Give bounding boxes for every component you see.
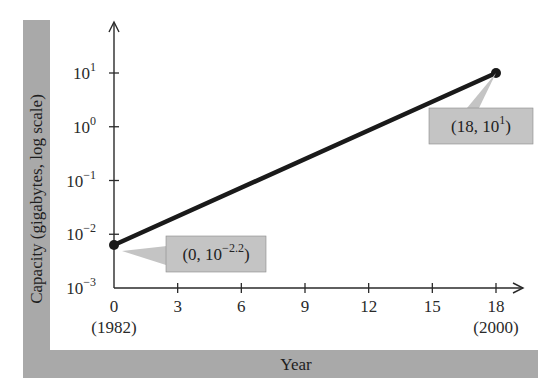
callout-0: (0, 10−2.2) — [122, 236, 266, 272]
y-axis-title: Capacity (gigabytes, log scale) — [27, 94, 46, 304]
data-point-marker — [109, 240, 119, 250]
callout-1: (18, 101) — [429, 73, 533, 144]
x-tick-sublabel: (2000) — [473, 318, 518, 337]
x-tick-label: 9 — [301, 297, 310, 316]
x-axis-title: Year — [280, 355, 312, 374]
x-tick-label: 0 — [110, 297, 119, 316]
x-tick-label: 18 — [488, 297, 505, 316]
data-series — [109, 68, 501, 250]
y-tick-label: 10−3 — [66, 275, 96, 298]
x-axis — [114, 283, 523, 293]
x-ticks: 0(1982)369121518(2000) — [91, 283, 518, 337]
x-tick-sublabel: (1982) — [91, 318, 136, 337]
capacity-line — [114, 73, 496, 245]
x-tick-label: 15 — [424, 297, 441, 316]
x-tick-label: 3 — [173, 297, 182, 316]
callouts: (0, 10−2.2)(18, 101) — [122, 73, 533, 272]
y-tick-label: 101 — [73, 60, 96, 83]
callout-pointer — [122, 246, 167, 265]
y-tick-label: 10−2 — [66, 221, 96, 244]
y-ticks: 10−310−210−1100101 — [66, 60, 119, 298]
chart-figure: Capacity (gigabytes, log scale) Year 10−… — [0, 0, 546, 391]
x-tick-label: 12 — [360, 297, 377, 316]
y-tick-label: 100 — [73, 114, 96, 137]
x-tick-label: 6 — [237, 297, 246, 316]
y-tick-label: 10−1 — [66, 168, 96, 191]
